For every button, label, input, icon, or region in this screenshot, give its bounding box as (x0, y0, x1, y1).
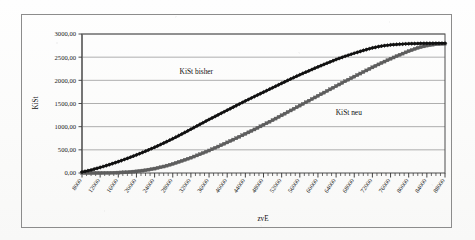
series-marker (416, 46, 419, 49)
series-marker (298, 104, 301, 107)
series-marker (105, 171, 108, 174)
series-marker (401, 52, 404, 55)
series-marker (265, 122, 268, 125)
data-series-layer (80, 41, 447, 174)
series-marker (153, 167, 156, 170)
series-marker (214, 146, 217, 149)
series-marker (174, 161, 177, 164)
series-marker (362, 70, 365, 73)
series-marker (108, 171, 111, 174)
series-annotations: KiSt bisherKiSt neu (180, 67, 363, 118)
series-marker (241, 134, 244, 137)
series-marker (162, 165, 165, 168)
series-marker (253, 128, 256, 131)
y-axis-title: KiSt (32, 96, 40, 109)
series-marker (201, 151, 204, 154)
series-marker (413, 47, 416, 50)
series-line (82, 43, 445, 172)
series-annotation: KiSt bisher (180, 67, 214, 76)
series-annotation: KiSt neu (336, 108, 362, 117)
y-tick-label: 2000,00 (55, 77, 77, 84)
series-marker (223, 142, 226, 145)
x-tick-label: 60000 (304, 177, 319, 194)
series-marker (96, 171, 99, 174)
series-marker (189, 156, 192, 159)
series-marker (250, 129, 253, 132)
series-marker (211, 148, 214, 151)
series-marker (99, 171, 102, 174)
series-marker (395, 55, 398, 58)
series-marker (295, 106, 298, 109)
series-marker (171, 162, 174, 165)
series-marker (177, 160, 180, 163)
chart-outer-frame: 0,00500,001000,001500,002000,002500,0030… (21, 14, 452, 228)
x-tick-label: 56000 (286, 177, 301, 194)
y-axis-tick-labels: 0,00500,001000,001500,002000,002500,0030… (55, 30, 77, 176)
y-tick-label: 0,00 (64, 169, 76, 176)
series-marker (389, 57, 392, 60)
x-tick-label: 12000 (86, 177, 101, 194)
y-tick-label: 2500,00 (55, 54, 77, 61)
series-marker (341, 81, 344, 84)
series-marker (277, 115, 280, 118)
series-marker (186, 157, 189, 160)
series-marker (126, 171, 129, 174)
series-marker (301, 102, 304, 105)
series-marker (338, 83, 341, 86)
series-marker (208, 149, 211, 152)
series-marker (220, 144, 223, 147)
series-marker (356, 74, 359, 77)
series-marker (289, 109, 292, 112)
series-marker (304, 101, 307, 104)
series-marker (365, 69, 368, 72)
series-kist-bisher (80, 41, 447, 174)
series-marker (419, 46, 422, 49)
series-marker (159, 166, 162, 169)
series-marker (329, 88, 332, 91)
x-tick-label: 76000 (377, 177, 392, 194)
series-marker (307, 99, 310, 102)
series-marker (274, 117, 277, 120)
series-marker (147, 168, 150, 171)
series-marker (271, 119, 274, 122)
x-tick-label: 88000 (431, 177, 446, 194)
x-tick-label: 36000 (195, 177, 210, 194)
x-tick-label: 80000 (395, 177, 410, 194)
series-marker (368, 67, 371, 70)
series-marker (374, 64, 377, 67)
series-marker (283, 112, 286, 115)
series-marker (371, 66, 374, 69)
x-tick-label: 84000 (413, 177, 428, 194)
series-marker (392, 56, 395, 59)
series-marker (310, 98, 313, 101)
series-marker (93, 171, 96, 174)
series-marker (102, 171, 105, 174)
series-marker (244, 132, 247, 135)
series-marker (410, 49, 413, 52)
series-marker (292, 107, 295, 110)
series-marker (259, 125, 262, 128)
series-marker (353, 75, 356, 78)
chart-page: 0,00500,001000,001500,002000,002500,0030… (0, 0, 475, 240)
series-marker (407, 50, 410, 53)
series-marker (286, 111, 289, 114)
series-marker (129, 170, 132, 173)
series-marker (347, 78, 350, 81)
series-marker (183, 158, 186, 161)
x-tick-label: 44000 (232, 177, 247, 194)
x-tick-label: 48000 (250, 177, 265, 194)
series-marker (141, 169, 144, 172)
y-tick-label: 1500,00 (55, 100, 77, 107)
series-marker (192, 155, 195, 158)
series-marker (198, 153, 201, 156)
series-marker (226, 141, 229, 144)
series-marker (386, 59, 389, 62)
series-marker (235, 137, 238, 140)
x-tick-label: 40000 (213, 177, 228, 194)
series-marker (380, 61, 383, 64)
series-marker (120, 171, 123, 174)
x-tick-label: 32000 (177, 177, 192, 194)
series-marker (313, 96, 316, 99)
series-marker (344, 80, 347, 83)
series-marker (377, 63, 380, 66)
